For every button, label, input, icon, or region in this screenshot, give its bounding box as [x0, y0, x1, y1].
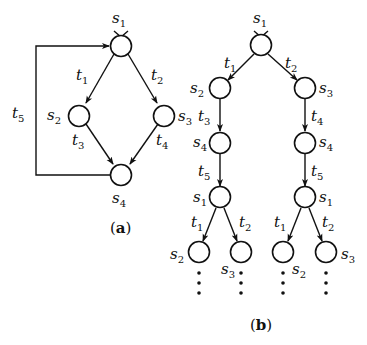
figure-b-unfolding-tree: s1 t1 s2 t3 s4 t5 s1 t1 t2 s2 s3 t2 s3 t…	[170, 9, 355, 334]
tree-edge-right-t1	[288, 208, 301, 241]
tree-label-t3: t3	[198, 107, 210, 127]
tree-label-right-leaf-s3: s3	[341, 245, 355, 265]
tree-edge-right-t2	[309, 208, 322, 241]
state-s1	[111, 36, 132, 57]
tree-node-right-s4	[295, 133, 316, 154]
state-s3	[154, 106, 175, 127]
tree-leaf-left-s2	[189, 242, 210, 263]
edge-t4	[130, 124, 158, 164]
tree-label-t1: t1	[224, 54, 236, 74]
tree-leaf-left-s3	[231, 242, 252, 263]
tree-label-t2: t2	[285, 54, 297, 74]
tree-label-t4: t4	[311, 107, 323, 127]
label-s1: s1	[112, 9, 126, 29]
tree-label-left-leaf-s3: s3	[221, 260, 235, 280]
tree-node-s2	[210, 78, 231, 99]
tree-node-root-s1	[251, 35, 272, 56]
tree-label-right-leaf-t1: t1	[274, 213, 286, 233]
tree-label-right-t5: t5	[311, 162, 323, 182]
tree-leaf-right-s2	[273, 242, 294, 263]
label-t2: t2	[151, 66, 163, 86]
edge-t3	[86, 124, 113, 164]
caption-b: (b)	[250, 316, 272, 334]
tree-label-left-leaf-t1: t1	[191, 213, 203, 233]
label-s3: s3	[178, 107, 192, 127]
tree-leaf-right-s3	[316, 242, 337, 263]
label-t4: t4	[156, 131, 168, 151]
label-s2: s2	[47, 106, 61, 126]
tree-node-left-s4	[210, 133, 231, 154]
caption-a: (a)	[110, 219, 131, 237]
label-t1: t1	[76, 66, 88, 86]
tree-label-left-t5: t5	[198, 162, 210, 182]
tree-label-s3: s3	[319, 79, 333, 99]
tree-label-root-s1: s1	[253, 9, 267, 29]
tree-node-right-s1	[295, 187, 316, 208]
tree-label-left-s1: s1	[193, 188, 207, 208]
tree-label-left-leaf-t2: t2	[239, 213, 251, 233]
tree-edge-left-t2	[224, 208, 237, 241]
tree-label-right-s1: s1	[319, 188, 333, 208]
state-diagram-figure: s1 s2 s3 s4 t1 t2 t3 t4 t5 (a)	[0, 0, 367, 345]
tree-label-left-leaf-s2: s2	[170, 245, 184, 265]
figure-a: s1 s2 s3 s4 t1 t2 t3 t4 t5 (a)	[12, 9, 192, 237]
tree-edge-left-t1	[203, 208, 216, 241]
label-t3: t3	[72, 131, 84, 151]
tree-node-s3	[295, 78, 316, 99]
label-s4: s4	[112, 189, 126, 209]
tree-label-right-leaf-s2: s2	[292, 260, 306, 280]
edge-t1	[86, 54, 114, 103]
tree-label-s2: s2	[190, 79, 204, 99]
tree-node-left-s1	[210, 187, 231, 208]
tree-label-right-leaf-t2: t2	[322, 213, 334, 233]
state-s4	[111, 165, 132, 186]
state-s2	[69, 106, 90, 127]
tree-label-right-s4: s4	[319, 133, 333, 153]
continuation-ellipsis-icon	[197, 271, 328, 295]
tree-label-left-s4: s4	[193, 133, 207, 153]
label-t5: t5	[12, 104, 24, 124]
